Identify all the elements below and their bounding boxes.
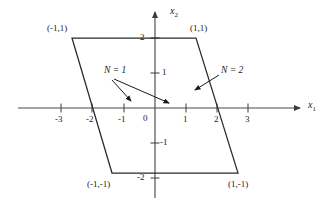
x-tick-label-3: 3 — [245, 115, 250, 124]
n2-arrows — [195, 75, 219, 90]
origin-label: 0 — [143, 114, 148, 123]
x-tick-label-neg3: -3 — [55, 115, 63, 124]
x-tick-label-2: 2 — [214, 115, 219, 124]
y-tick-label-neg1: -1 — [160, 138, 168, 147]
figure-canvas: x2 x1 -3 -2 -1 0 1 2 3 2 1 -1 -2 (-1,1) … — [0, 0, 335, 209]
vertex-label-bottom-left: (-1,-1) — [87, 180, 110, 189]
y-tick-label-2: 2 — [140, 33, 145, 42]
annotation-n-equals-2: N = 2 — [221, 66, 243, 76]
x-tick-label-1: 1 — [183, 115, 188, 124]
x-tick-label-neg2: -2 — [86, 115, 94, 124]
annotation-n-equals-1: N = 1 — [104, 66, 126, 76]
vertex-label-top-right: (1,1) — [190, 24, 207, 33]
vertex-label-top-left: (-1,1) — [47, 24, 67, 33]
x-axis-label: x1 — [308, 100, 316, 113]
vertex-label-bottom-right: (1,-1) — [228, 180, 248, 189]
y-tick-label-neg2: -2 — [137, 173, 145, 182]
n1-arrows — [112, 79, 169, 103]
y-tick-label-1: 1 — [162, 68, 167, 77]
y-axis-label: x2 — [170, 6, 178, 19]
x-tick-label-neg1: -1 — [118, 115, 126, 124]
